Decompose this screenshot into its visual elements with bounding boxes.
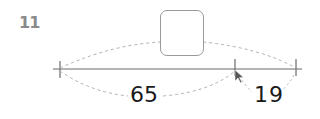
top-arc-right [203,42,296,68]
bottom-arc-65-left [60,71,128,96]
bottom-arc-65-right [163,71,235,96]
top-arc-left [60,42,160,68]
answer-box[interactable] [160,10,204,56]
segment-label-left: 65 [130,84,158,106]
segment-label-right: 19 [254,84,284,106]
